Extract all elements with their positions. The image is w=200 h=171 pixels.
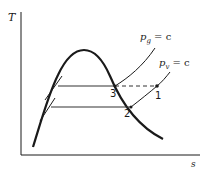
saturation-dome (33, 50, 163, 147)
pg-constant-curve (115, 48, 155, 86)
y-axis-label: T (8, 11, 17, 24)
pg-curve-label: pg = c (140, 31, 172, 45)
point-1-marker (155, 84, 159, 88)
pv-label-rest: = c (169, 57, 190, 68)
x-axis-label: s (191, 159, 196, 169)
pv-constant-curve (131, 72, 170, 107)
left-tangent-upper (45, 76, 62, 100)
point-3-label: 3 (110, 88, 116, 99)
pg-label-rest: = c (151, 31, 172, 42)
pv-curve-label: pv = c (159, 57, 190, 71)
point-1-label: 1 (155, 90, 161, 101)
point-2-label: 2 (124, 108, 130, 119)
ts-diagram: T s 1 2 3 pg = c pv = c (0, 0, 200, 171)
